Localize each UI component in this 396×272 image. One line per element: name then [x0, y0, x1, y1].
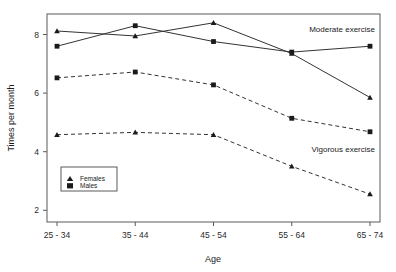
x-tick-label: 65 - 74 — [357, 230, 384, 240]
annotation-vigorous-exercise: Vigorous exercise — [312, 145, 376, 154]
data-point-marker — [55, 75, 60, 80]
chart-container: 2468 25 - 3435 - 4445 - 5455 - 6465 - 74… — [0, 0, 396, 272]
data-point-marker — [211, 39, 216, 44]
legend: Females Males — [61, 167, 117, 191]
x-tick-label: 25 - 34 — [44, 230, 71, 240]
data-point-marker — [133, 23, 138, 28]
legend-square-icon — [67, 183, 73, 188]
x-axis-title: Age — [205, 254, 221, 264]
y-tick-label: 2 — [34, 205, 39, 215]
y-tick-label: 4 — [34, 147, 39, 157]
y-tick-label: 6 — [34, 88, 39, 98]
data-point-marker — [368, 44, 373, 49]
data-point-marker — [133, 70, 138, 75]
y-axis-title: Times per month — [6, 84, 16, 151]
x-tick-label: 45 - 54 — [200, 230, 227, 240]
data-point-marker — [211, 83, 216, 88]
data-point-marker — [368, 129, 373, 134]
exercise-frequency-line-chart: 2468 25 - 3435 - 4445 - 5455 - 6465 - 74… — [0, 0, 396, 272]
x-tick-label: 35 - 44 — [122, 230, 149, 240]
annotation-moderate-exercise: Moderate exercise — [309, 25, 375, 34]
x-tick-label: 55 - 64 — [279, 230, 306, 240]
y-tick-label: 8 — [34, 30, 39, 40]
legend-label-females: Females — [80, 175, 106, 182]
data-point-marker — [55, 44, 60, 49]
data-point-marker — [289, 116, 294, 121]
legend-label-males: Males — [80, 182, 98, 189]
data-point-marker — [289, 50, 294, 55]
